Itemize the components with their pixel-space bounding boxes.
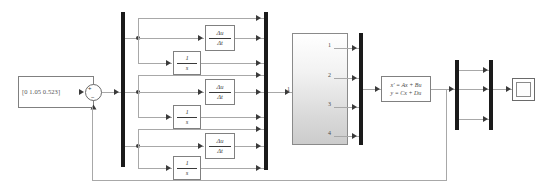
state-space-equation-2: y = Cx + Du xyxy=(391,90,422,96)
integrator-numerator-2: 1 xyxy=(183,109,190,116)
wire-branch3-passthrough xyxy=(138,129,264,130)
arrow-matrix-out-1 xyxy=(352,45,357,51)
wire-branch2-up xyxy=(138,75,139,92)
wire-branch3-to-derivative xyxy=(138,146,204,147)
arrow-branch1-deriv-to-mux xyxy=(256,35,261,41)
integrator-denominator-1: s xyxy=(184,65,191,72)
arrow-branch3-deriv-to-mux xyxy=(256,143,261,149)
wire-branch1-down xyxy=(138,38,139,63)
arrow-into-state-space xyxy=(375,86,380,92)
mux-bus-scope-in[interactable] xyxy=(489,60,493,130)
mux-bus-branches[interactable] xyxy=(264,12,268,170)
arrow-into-output-demux xyxy=(449,86,454,92)
wire-branch2-passthrough xyxy=(138,75,264,76)
arrow-output-1 xyxy=(483,67,488,73)
arrow-into-scope xyxy=(506,86,511,92)
wire-branch2-down xyxy=(138,92,139,117)
wire-branch1-integrator-to-mux xyxy=(201,63,264,64)
block-diagram-canvas: [0 1.05 0.523] + − Δu Δt 1 s xyxy=(0,0,546,193)
matrix-output-port-label-2: 2 xyxy=(328,72,331,78)
matrix-input-port-label: 1 xyxy=(287,86,290,92)
arrow-into-branch2-integrator xyxy=(166,114,171,120)
scope-screen-icon xyxy=(516,82,531,97)
wire-branch2-to-derivative xyxy=(138,92,204,93)
demux-bus-input[interactable] xyxy=(121,12,125,167)
arrow-into-branch3-integrator xyxy=(166,165,171,171)
wire-mux-to-state-space xyxy=(363,89,383,90)
derivative-denominator-2: Δt xyxy=(215,94,225,101)
arrow-matrix-out-3 xyxy=(352,104,357,110)
arrow-feedback-into-sum xyxy=(90,105,96,110)
arrow-branch2-pass-to-mux xyxy=(256,72,261,78)
arrow-branch3-pass-to-mux xyxy=(256,126,261,132)
arrow-matrix-out-4 xyxy=(352,133,357,139)
wire-branch1-to-derivative xyxy=(138,38,204,39)
wire-feedback-left xyxy=(92,180,447,181)
arrow-branch2-deriv-to-mux xyxy=(256,89,261,95)
arrow-into-branch1-integrator xyxy=(166,60,171,66)
integrator-block-3[interactable]: 1 s xyxy=(173,156,201,180)
matrix-output-port-label-4: 4 xyxy=(328,130,331,136)
arrow-branch3-integ-to-mux xyxy=(256,165,261,171)
wire-branch1-up xyxy=(138,18,139,38)
matrix-output-port-label-3: 3 xyxy=(328,101,331,107)
derivative-block-1[interactable]: Δu Δt xyxy=(205,25,235,51)
wire-feedback-up xyxy=(92,106,93,180)
integrator-block-2[interactable]: 1 s xyxy=(173,105,201,129)
matrix-output-port-label-1: 1 xyxy=(328,42,331,48)
wire-branch2-integrator-to-mux xyxy=(201,117,264,118)
wire-branch1-passthrough xyxy=(138,18,264,19)
arrow-output-3 xyxy=(483,116,488,122)
arrow-branch1-integ-to-mux xyxy=(256,60,261,66)
arrow-matrix-out-2 xyxy=(352,75,357,81)
state-space-block[interactable]: x′ = Ax + Bu y = Cx + Du xyxy=(381,76,431,102)
arrow-into-branch3-derivative xyxy=(198,143,203,149)
state-space-equation-1: x′ = Ax + Bu xyxy=(391,82,422,88)
derivative-block-2[interactable]: Δu Δt xyxy=(205,79,235,105)
scope-block[interactable] xyxy=(512,78,535,101)
matrix-gain-block[interactable] xyxy=(292,33,348,145)
derivative-numerator-3: Δu xyxy=(214,138,225,145)
derivative-numerator-1: Δu xyxy=(214,30,225,37)
sum-plus-sign: + xyxy=(88,85,92,91)
derivative-denominator-1: Δt xyxy=(215,40,225,47)
derivative-numerator-2: Δu xyxy=(214,84,225,91)
arrow-branch1-pass-to-mux xyxy=(256,15,261,21)
integrator-denominator-2: s xyxy=(184,119,191,126)
arrow-into-sum xyxy=(79,89,84,95)
derivative-denominator-3: Δt xyxy=(215,148,225,155)
arrow-branch2-integ-to-mux xyxy=(256,114,261,120)
wire-feedback-down xyxy=(446,89,447,180)
arrow-into-demux-bus xyxy=(114,89,119,95)
wire-branch3-down xyxy=(138,146,139,168)
wire-branch3-integrator-to-mux xyxy=(201,168,264,169)
integrator-block-1[interactable]: 1 s xyxy=(173,51,201,75)
arrow-into-branch1-derivative xyxy=(198,35,203,41)
integrator-numerator-3: 1 xyxy=(183,160,190,167)
arrow-into-branch2-derivative xyxy=(198,89,203,95)
wire-branch3-up xyxy=(138,129,139,146)
derivative-block-3[interactable]: Δu Δt xyxy=(205,133,235,159)
sum-minus-sign: − xyxy=(91,94,95,100)
arrow-output-2 xyxy=(483,86,488,92)
integrator-denominator-3: s xyxy=(184,170,191,177)
integrator-numerator-1: 1 xyxy=(183,55,190,62)
